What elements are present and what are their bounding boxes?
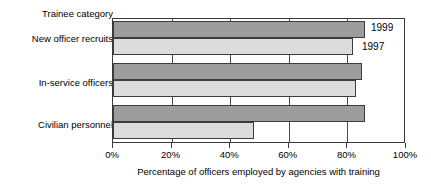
category-label-new-officer-recruits: New officer recruits [32, 33, 113, 44]
category-label-in-service-officers: In-service officers [39, 77, 113, 88]
bar [113, 38, 353, 55]
x-axis-title: Percentage of officers employed by agenc… [112, 166, 405, 177]
x-tick-label: 40% [220, 149, 239, 160]
x-tick-mark [112, 143, 113, 148]
plot-area [112, 18, 405, 143]
bar [113, 63, 362, 80]
x-tick-mark [346, 143, 347, 148]
bar-chart: Trainee category New officer recruits In… [0, 0, 431, 187]
bar [113, 21, 365, 38]
bar [113, 105, 365, 122]
x-tick-mark [171, 143, 172, 148]
bar [113, 122, 254, 139]
x-tick-label: 100% [393, 149, 417, 160]
x-tick-mark [229, 143, 230, 148]
x-tick-mark [405, 143, 406, 148]
x-tick-label: 20% [161, 149, 180, 160]
category-label-civilian-personnel: Civilian personnel [38, 119, 113, 130]
series-annotation-1999: 1999 [371, 22, 393, 33]
x-tick-label: 60% [278, 149, 297, 160]
category-axis-label: Trainee category [42, 8, 113, 19]
series-annotation-1997: 1997 [362, 41, 384, 52]
x-tick-label: 80% [337, 149, 356, 160]
bar [113, 80, 356, 97]
x-tick-mark [288, 143, 289, 148]
x-tick-label: 0% [105, 149, 119, 160]
